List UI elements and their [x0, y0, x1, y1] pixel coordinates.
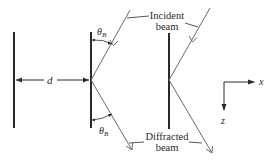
- diffracted-label-line2: beam: [156, 142, 179, 153]
- diffracted-label-line1: Diffracted: [146, 131, 190, 142]
- incident-label-line2: beam: [156, 21, 179, 32]
- diffracted-beam-1: [91, 80, 133, 150]
- theta-b-upper-angle: θB: [92, 26, 112, 45]
- bragg-diffraction-diagram: d θB θB Incident beam: [0, 0, 271, 162]
- theta-b-lower-label: θB: [99, 125, 109, 138]
- spacing-d-label: d: [47, 74, 53, 86]
- x-axis-label: x: [258, 76, 264, 87]
- incident-beam-1: [91, 10, 130, 80]
- z-axis-label: z: [220, 115, 225, 126]
- incident-beam-label: Incident beam: [127, 10, 198, 32]
- theta-b-lower-angle: θB: [92, 114, 112, 138]
- coordinate-axes: x z: [220, 76, 264, 126]
- incident-label-line1: Incident: [150, 10, 184, 21]
- spacing-d-dimension: d: [16, 74, 89, 86]
- diffracted-beam-label: Diffracted beam: [129, 131, 202, 153]
- theta-b-upper-label: θB: [97, 26, 107, 39]
